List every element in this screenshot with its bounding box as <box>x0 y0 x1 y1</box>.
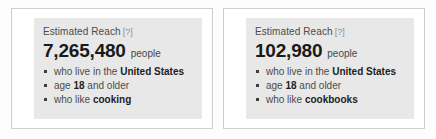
criteria-strong: 18 <box>73 80 84 91</box>
list-item: who like cookbooks <box>255 93 406 106</box>
reach-panel-right: Estimated Reach[?] 102,980 people who li… <box>223 8 425 129</box>
bullet-icon <box>256 70 259 73</box>
list-item: age 18 and older <box>255 79 406 92</box>
criteria-suffix: and older <box>85 80 129 91</box>
bullet-icon <box>44 98 47 101</box>
reach-header-label: Estimated Reach <box>43 26 121 37</box>
help-icon[interactable]: [?] <box>123 27 133 37</box>
criteria-prefix: who like <box>266 94 305 105</box>
criteria-prefix: age <box>266 80 285 91</box>
reach-count-row: 7,265,480 people <box>43 40 194 61</box>
bullet-icon <box>44 70 47 73</box>
reach-header: Estimated Reach[?] <box>43 26 194 38</box>
list-item: who like cooking <box>43 93 194 106</box>
reach-count-value: 102,980 <box>255 40 322 61</box>
bullet-icon <box>256 84 259 87</box>
reach-card: Estimated Reach[?] 102,980 people who li… <box>246 18 414 119</box>
reach-panel-left: Estimated Reach[?] 7,265,480 people who … <box>11 8 213 129</box>
help-icon[interactable]: [?] <box>335 27 345 37</box>
reach-header: Estimated Reach[?] <box>255 26 406 38</box>
criteria-prefix: who like <box>54 94 93 105</box>
targeting-criteria-list: who live in the United States age 18 and… <box>255 65 406 106</box>
bullet-icon <box>44 84 47 87</box>
reach-count-unit: people <box>327 48 357 60</box>
list-item: who live in the United States <box>255 65 406 78</box>
list-item: who live in the United States <box>43 65 194 78</box>
list-item: age 18 and older <box>43 79 194 92</box>
reach-panel-group: Estimated Reach[?] 7,265,480 people who … <box>11 8 425 129</box>
estimated-reach-screenshot: Estimated Reach[?] 7,265,480 people who … <box>0 0 436 139</box>
criteria-strong: cooking <box>93 94 131 105</box>
criteria-prefix: who live in the <box>54 66 120 77</box>
reach-count-value: 7,265,480 <box>43 40 126 61</box>
bullet-icon <box>256 98 259 101</box>
criteria-strong: United States <box>332 66 396 77</box>
criteria-strong: cookbooks <box>305 94 358 105</box>
criteria-strong: 18 <box>285 80 296 91</box>
criteria-suffix: and older <box>297 80 341 91</box>
reach-header-label: Estimated Reach <box>255 26 333 37</box>
criteria-prefix: age <box>54 80 73 91</box>
criteria-strong: United States <box>120 66 184 77</box>
reach-count-unit: people <box>131 48 161 60</box>
reach-card: Estimated Reach[?] 7,265,480 people who … <box>34 18 202 119</box>
reach-count-row: 102,980 people <box>255 40 406 61</box>
criteria-prefix: who live in the <box>266 66 332 77</box>
targeting-criteria-list: who live in the United States age 18 and… <box>43 65 194 106</box>
